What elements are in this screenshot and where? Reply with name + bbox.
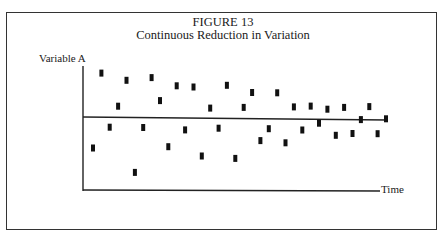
data-point [141,124,145,131]
data-point [192,84,196,91]
data-points [91,70,388,176]
data-point [376,130,380,137]
data-point [275,89,279,96]
data-point [158,97,162,104]
data-point [208,105,212,112]
data-point [175,82,179,89]
data-point [292,103,296,110]
data-point [309,103,313,110]
data-point [334,132,338,139]
data-point [351,130,355,137]
data-point [359,116,363,123]
data-point [325,106,329,113]
data-point [317,120,321,127]
data-point [91,145,95,152]
data-point [242,104,246,111]
data-point [116,103,120,110]
data-point [200,153,204,160]
data-point [258,137,262,144]
data-point [183,126,187,133]
data-point [267,125,271,132]
x-axis [83,190,380,191]
data-point [166,143,170,150]
data-point [225,82,229,89]
scatter-plot [0,0,446,246]
data-point [217,125,221,132]
data-point [233,155,237,162]
data-point [125,77,129,84]
data-point [300,127,304,134]
data-point [108,124,112,131]
data-point [384,115,388,122]
data-point [133,169,137,176]
data-point [99,70,103,77]
data-point [250,89,254,96]
data-point [367,103,371,110]
data-point [342,104,346,111]
data-point [150,74,154,81]
data-point [284,139,288,146]
center-line [83,117,388,120]
